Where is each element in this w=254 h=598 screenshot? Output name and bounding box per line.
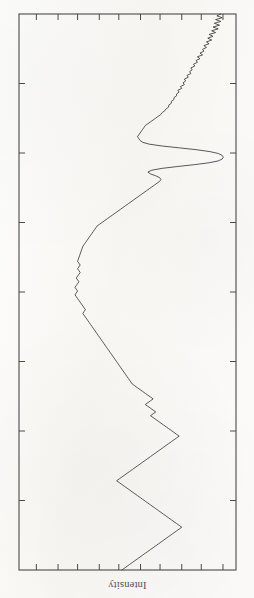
axis-ticks-right	[230, 84, 236, 501]
data-curve-group	[75, 14, 223, 570]
plot-figure	[0, 0, 254, 598]
plot-frame-rect	[19, 14, 236, 570]
plot-frame	[19, 14, 236, 570]
scanned-figure-page: Intensity	[0, 0, 254, 598]
axis-ticks-left	[19, 84, 25, 501]
axis-ticks-top	[36, 14, 223, 20]
data-curve	[75, 14, 223, 570]
